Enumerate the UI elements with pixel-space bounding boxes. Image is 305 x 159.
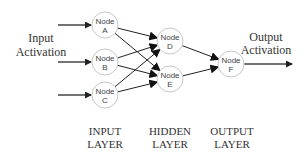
nodes: NodeANodeBNodeCNodeDNodeENodeF bbox=[92, 12, 244, 108]
output-layer-line1: OUTPUT bbox=[210, 125, 254, 137]
node-word: Node bbox=[160, 71, 180, 80]
input-layer-line1: INPUT bbox=[89, 125, 122, 137]
edge-d-f bbox=[182, 46, 219, 60]
node-e: NodeE bbox=[157, 66, 183, 92]
node-letter: C bbox=[102, 96, 108, 105]
output-activation-label: Output Activation bbox=[241, 30, 292, 57]
node-word: Node bbox=[95, 87, 115, 96]
node-letter: F bbox=[229, 65, 234, 74]
edge-b-e bbox=[118, 65, 158, 75]
node-a: NodeA bbox=[92, 12, 118, 38]
node-word: Node bbox=[160, 33, 180, 42]
edge-c-d bbox=[115, 49, 160, 86]
input-activation-label: Input Activation bbox=[16, 31, 67, 59]
input-layer-line2: LAYER bbox=[87, 138, 123, 150]
input-arrows bbox=[58, 25, 91, 95]
hidden-layer-line1: HIDDEN bbox=[149, 125, 191, 137]
edge-c-e bbox=[118, 82, 158, 92]
node-d: NodeD bbox=[157, 28, 183, 54]
input-activation-line2: Activation bbox=[16, 45, 67, 59]
node-word: Node bbox=[95, 17, 115, 26]
output-activation-line1: Output bbox=[249, 30, 283, 44]
node-letter: E bbox=[167, 80, 172, 89]
input-activation-line1: Input bbox=[28, 31, 54, 45]
output-activation-line2: Activation bbox=[241, 43, 292, 57]
node-word: Node bbox=[221, 56, 241, 65]
layer-labels: INPUT LAYER HIDDEN LAYER OUTPUT LAYER bbox=[87, 125, 254, 150]
hidden-layer-line2: LAYER bbox=[152, 138, 188, 150]
node-b: NodeB bbox=[92, 49, 118, 75]
node-c: NodeC bbox=[92, 82, 118, 108]
node-word: Node bbox=[95, 54, 115, 63]
node-letter: B bbox=[102, 63, 107, 72]
node-letter: D bbox=[167, 42, 173, 51]
edge-a-d bbox=[118, 28, 158, 38]
edge-e-f bbox=[183, 67, 219, 76]
neural-network-diagram: NodeANodeBNodeCNodeDNodeENodeF Input Act… bbox=[0, 0, 305, 159]
node-letter: A bbox=[102, 26, 108, 35]
output-layer-line2: LAYER bbox=[214, 138, 250, 150]
